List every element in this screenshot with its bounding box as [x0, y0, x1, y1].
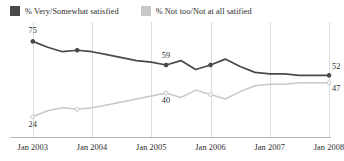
legend-label-unsatisfied: % Not too/Not at all satified [156, 7, 252, 16]
value-label-satisfied-end: 52 [332, 62, 340, 71]
value-label-unsatisfied-end: 47 [332, 84, 340, 93]
x-axis: Jan 2003Jan 2004Jan 2005Jan 2006Jan 2007… [0, 139, 341, 161]
data-point-unsatisfied [31, 115, 35, 119]
x-tick-label-1: Jan 2004 [77, 143, 107, 152]
legend-item-satisfied[interactable]: % Very/Somewhat satisfied [10, 0, 119, 22]
x-tick-label-4: Jan 2007 [255, 143, 285, 152]
data-point-satisfied [164, 63, 168, 67]
x-tick-label-0: Jan 2003 [18, 143, 48, 152]
data-point-satisfied [209, 63, 213, 67]
data-point-satisfied [75, 48, 79, 52]
value-label-unsatisfied-mid: 40 [162, 96, 170, 105]
series-satisfied [31, 39, 331, 77]
x-tick-label-3: Jan 2006 [195, 143, 225, 152]
data-point-unsatisfied [75, 107, 79, 111]
series-line-satisfied [33, 41, 329, 75]
x-tick-label-5: Jan 2008 [314, 143, 344, 152]
plot-area: 75 59 52 24 40 47 [0, 22, 341, 139]
value-label-satisfied-start: 75 [29, 26, 37, 35]
legend-swatch-unsatisfied [141, 6, 151, 16]
legend-item-unsatisfied[interactable]: % Not too/Not at all satified [141, 0, 252, 22]
chart-canvas [0, 22, 341, 139]
value-label-unsatisfied-start: 24 [29, 120, 37, 129]
data-point-unsatisfied [164, 91, 168, 95]
series-unsatisfied [31, 81, 331, 119]
data-point-unsatisfied [209, 93, 213, 97]
legend-swatch-satisfied [10, 6, 20, 16]
value-label-satisfied-mid: 59 [162, 51, 170, 60]
x-tick-label-2: Jan 2005 [136, 143, 166, 152]
data-point-satisfied [327, 73, 331, 77]
data-point-satisfied [31, 39, 35, 43]
gridlines [34, 22, 330, 137]
chart-legend: % Very/Somewhat satisfied % Not too/Not … [0, 0, 341, 22]
data-point-unsatisfied [327, 81, 331, 85]
legend-label-satisfied: % Very/Somewhat satisfied [25, 7, 119, 16]
